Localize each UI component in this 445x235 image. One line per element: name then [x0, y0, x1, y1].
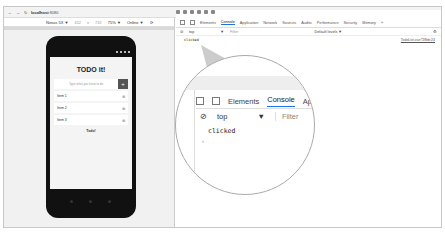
tab-audits[interactable]: Audits: [301, 21, 312, 25]
devtools-tabs: Elements Console Application Network Sou…: [176, 18, 441, 28]
android-nav-buttons: [70, 200, 111, 203]
inspect-icon[interactable]: [180, 20, 185, 25]
add-button[interactable]: +: [118, 79, 128, 89]
rotate-icon[interactable]: ⟳: [150, 20, 153, 25]
callout-filter-bar: ⊘ top ▼ Filter: [200, 112, 315, 121]
address-bar[interactable]: ← → ↻ localhost:8080: [4, 7, 441, 18]
tab-application[interactable]: Application: [240, 21, 259, 25]
levels-select[interactable]: Default levels ▼: [314, 30, 342, 34]
width-input[interactable]: 412: [74, 20, 81, 25]
todo-input[interactable]: Type what you have to do: [54, 79, 118, 89]
zoom-select[interactable]: 75% ▼: [108, 20, 121, 25]
media-query-ruler: [4, 27, 174, 30]
tab-elements[interactable]: Elements: [200, 21, 216, 25]
todo-item[interactable]: Item 3⊗: [54, 115, 128, 125]
todo-item[interactable]: Item 1⊗: [54, 91, 128, 101]
tab-security[interactable]: Security: [344, 21, 358, 25]
home-nav-icon: [89, 200, 92, 203]
log-source-link[interactable]: TodoList.vue?28bb:24: [401, 38, 435, 42]
device-toggle-icon[interactable]: [190, 20, 195, 25]
console-filter-bar: ⊘ top ▼ Filter Default levels ▼ ⚙: [176, 28, 441, 36]
phone-screen: TODO it! Type what you have to do + Item…: [50, 57, 132, 189]
app-title: TODO it!: [50, 66, 132, 73]
delete-icon[interactable]: ⊗: [122, 106, 125, 111]
phone-frame: TODO it! Type what you have to do + Item…: [46, 36, 136, 218]
delete-icon[interactable]: ⊗: [122, 94, 125, 99]
callout-tabs: Elements Console App: [196, 95, 315, 107]
tab-memory[interactable]: Memory: [362, 21, 376, 25]
filter-input[interactable]: Filter: [230, 30, 238, 34]
recents-nav-icon: [108, 200, 111, 203]
network-select[interactable]: Online ▼: [127, 20, 144, 25]
todo-input-row: Type what you have to do +: [54, 79, 128, 89]
tab-performance[interactable]: Performance: [317, 21, 339, 25]
device-toolbar: Nexus 5X ▼ 412 x 732 75% ▼ Online ▼ ⟳: [4, 18, 174, 27]
app-footer: Todo!: [50, 129, 132, 133]
context-select[interactable]: top: [189, 30, 194, 34]
height-input[interactable]: 732: [95, 20, 102, 25]
callout-log: clicked: [208, 127, 235, 135]
clear-console-icon[interactable]: ⊘: [180, 29, 183, 34]
reload-icon[interactable]: ↻: [24, 10, 27, 15]
device-toggle-icon: [212, 97, 220, 105]
device-select[interactable]: Nexus 5X ▼: [46, 20, 68, 25]
forward-icon[interactable]: →: [16, 10, 20, 15]
status-bar-icons: [116, 51, 130, 53]
clear-console-icon: ⊘: [200, 112, 207, 121]
callout-band: [176, 76, 315, 90]
tab-console[interactable]: Console: [221, 20, 235, 25]
url[interactable]: localhost:8080: [31, 10, 59, 15]
tab-sources[interactable]: Sources: [282, 21, 296, 25]
zoom-callout: Elements Console App ⊘ top ▼ Filter clic…: [175, 55, 315, 195]
tab-network[interactable]: Network: [263, 21, 277, 25]
back-icon[interactable]: ←: [8, 10, 12, 15]
todo-item[interactable]: Item 2⊗: [54, 103, 128, 113]
callout-prompt: ›: [202, 138, 204, 144]
settings-icon[interactable]: ⚙: [433, 29, 437, 34]
inspect-icon: [196, 97, 204, 105]
back-nav-icon: [70, 200, 73, 203]
more-tabs[interactable]: »: [381, 21, 383, 25]
delete-icon[interactable]: ⊗: [122, 118, 125, 123]
device-emulator-pane: Nexus 5X ▼ 412 x 732 75% ▼ Online ▼ ⟳ TO…: [4, 18, 175, 227]
context-arrow[interactable]: ▼: [220, 30, 224, 34]
times-label: x: [87, 20, 89, 25]
